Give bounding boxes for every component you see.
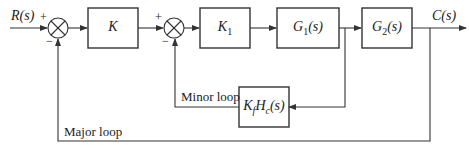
major-loop-label: Major loop (64, 124, 122, 140)
sum1-plus-sign: + (40, 10, 47, 25)
block-k-label: K (88, 19, 138, 35)
block-g1-label: G1(s) (277, 19, 339, 37)
input-label: R(s) (11, 8, 34, 24)
output-label: C(s) (432, 8, 456, 24)
block-kf-hc-label: KfHc(s) (239, 98, 289, 116)
block-g2-label: G2(s) (362, 19, 412, 37)
sum1-minus-sign: − (46, 34, 53, 49)
minor-loop-feedback-in (289, 28, 345, 107)
sum2-plus-sign: + (155, 10, 162, 25)
block-k1-label: K1 (200, 19, 250, 37)
minor-loop-label: Minor loop (181, 89, 240, 105)
sum2-minus-sign: − (162, 34, 169, 49)
